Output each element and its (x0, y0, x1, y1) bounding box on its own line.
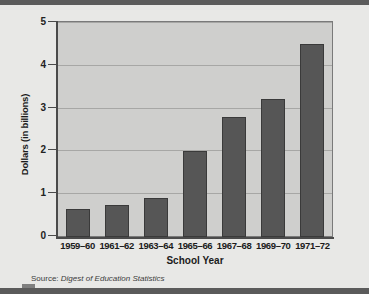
x-axis-tick-label: 1959–60 (60, 240, 95, 251)
bar (261, 99, 285, 237)
x-axis-tick-label: 1971–72 (295, 240, 330, 251)
bottom-edge-band (0, 288, 369, 294)
x-axis-line (56, 237, 334, 239)
bar (183, 151, 207, 237)
x-axis-tick-label: 1969–70 (256, 240, 291, 251)
x-axis-tick-label: 1961–62 (99, 240, 134, 251)
y-axis-tick (48, 107, 57, 108)
y-axis-tick (48, 149, 57, 150)
y-axis-tick (48, 21, 57, 22)
bar (105, 205, 129, 237)
bar (144, 198, 168, 237)
bar (300, 44, 324, 238)
bar (66, 209, 90, 237)
x-axis-tick-label: 1967–68 (217, 240, 252, 251)
x-axis-tick-label: 1963–64 (139, 240, 174, 251)
y-axis-title: Dollars (in billions) (19, 65, 30, 205)
y-axis-tick-label: 0 (6, 230, 46, 241)
bars-group (58, 22, 332, 237)
source-note: Source: Digest of Education Statistics (31, 274, 164, 283)
top-edge-band (0, 0, 369, 5)
x-axis-title: School Year (57, 255, 333, 266)
source-publication: Digest of Education Statistics (61, 274, 165, 283)
y-axis-tick (48, 235, 57, 236)
y-axis-tick-label: 5 (6, 16, 46, 27)
y-axis-tick (48, 192, 57, 193)
chart-figure: 012345 Dollars (in billions) 1959–601961… (0, 0, 369, 294)
x-axis-tick-label: 1965–66 (178, 240, 213, 251)
y-axis-line (56, 21, 58, 238)
source-prefix: Source: (31, 274, 59, 283)
bar (222, 117, 246, 237)
y-axis-tick (48, 64, 57, 65)
